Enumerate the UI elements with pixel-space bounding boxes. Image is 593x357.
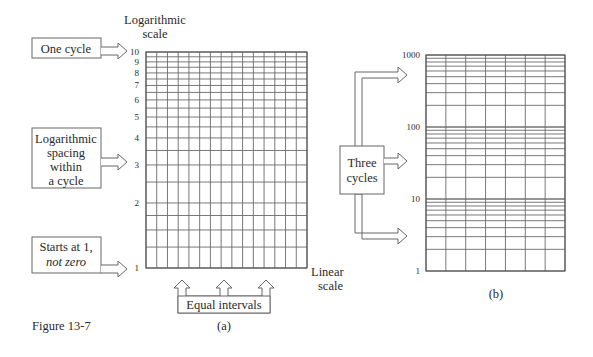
y-tick-label: 8	[135, 68, 140, 78]
grid-border	[146, 52, 307, 268]
y-tick-label: 6	[135, 95, 140, 105]
log-grid-three-cycles	[426, 55, 565, 271]
callout-log-spacing: Logarithmic spacing within a cycle	[32, 128, 127, 188]
y-tick-label: 2	[135, 198, 140, 208]
callout-equal-intervals: Equal intervals	[174, 280, 274, 313]
y-tick-label: 1000	[402, 50, 421, 60]
callout-one-cycle: One cycle	[32, 38, 127, 59]
callout-three-cycles: Three cycles	[340, 67, 407, 244]
callout-text-line1: Three	[347, 156, 377, 170]
panel-a-sublabel: (a)	[217, 319, 231, 333]
y-tick-label: 9	[135, 57, 140, 67]
y-axis-title-line2: scale	[143, 27, 168, 41]
callout-text-line3: within	[50, 160, 83, 174]
callout-text-line1: Logarithmic	[35, 132, 97, 146]
panel-b: 1101001000 Three cycles (b)	[340, 50, 565, 301]
y-tick-labels-a: 12345678910	[130, 47, 140, 273]
callout-text-line4: a cycle	[48, 174, 83, 188]
y-tick-label: 4	[135, 133, 140, 143]
y-tick-label: 1	[135, 263, 140, 273]
arrow-right-icon	[101, 261, 127, 277]
callout-text-line2: spacing	[47, 146, 86, 160]
grid-border	[426, 55, 565, 271]
y-tick-label: 7	[135, 80, 140, 90]
arrow-right-icon	[101, 154, 127, 170]
figure-canvas: Logarithmic scale 12345678910 Linear sca…	[0, 0, 593, 357]
x-axis-title-line2: scale	[318, 279, 343, 293]
log-grid-one-cycle	[146, 52, 307, 268]
callout-starts-at-1: Starts at 1, not zero	[32, 237, 127, 277]
callout-text-line2: not zero	[46, 255, 86, 269]
callout-text-line2: cycles	[346, 171, 377, 185]
arrow-right-icon	[355, 67, 407, 146]
y-tick-label: 1	[416, 266, 421, 276]
y-tick-label: 10	[411, 194, 421, 204]
arrow-right-icon	[384, 153, 407, 169]
panel-a: Logarithmic scale 12345678910 Linear sca…	[32, 13, 344, 333]
callout-text: One cycle	[41, 42, 92, 56]
y-tick-label: 100	[407, 122, 421, 132]
callout-text: Equal intervals	[186, 298, 261, 312]
arrow-right-icon	[101, 43, 127, 59]
figure-caption: Figure 13-7	[32, 319, 91, 333]
y-tick-label: 10	[130, 47, 140, 57]
y-tick-label: 3	[135, 160, 140, 170]
y-axis-title-line1: Logarithmic	[124, 13, 186, 27]
y-tick-label: 5	[135, 112, 140, 122]
callout-box	[340, 146, 384, 194]
callout-text-line1: Starts at 1,	[39, 240, 92, 254]
arrow-right-icon	[355, 194, 407, 244]
x-axis-title-line1: Linear	[311, 265, 344, 279]
panel-b-sublabel: (b)	[489, 287, 504, 301]
